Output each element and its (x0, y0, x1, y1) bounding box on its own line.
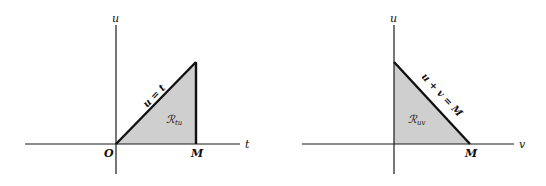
u-axis-label-left: u (112, 12, 119, 25)
origin-label: O (104, 147, 114, 160)
v-axis-label: v (519, 138, 526, 151)
left-diagram: u t O M u = t ℛtu (25, 12, 250, 174)
t-axis-label: t (245, 138, 250, 151)
diagram-canvas: u t O M u = t ℛtu u v M u + v = M ℛuv (0, 0, 546, 186)
m-label-left: M (190, 147, 204, 160)
u-axis-label-right: u (390, 12, 397, 25)
right-diagram: u v M u + v = M ℛuv (302, 12, 526, 174)
m-label-right: M (464, 147, 478, 160)
